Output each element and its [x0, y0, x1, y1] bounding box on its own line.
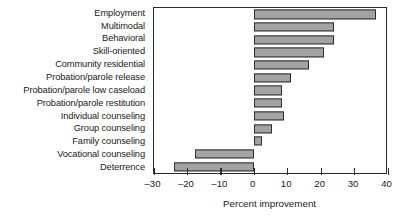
y-axis-tick-label: Individual counseling — [0, 110, 149, 123]
bar-row — [154, 21, 386, 34]
bar — [254, 124, 272, 133]
bar — [254, 35, 334, 44]
y-axis-tick-label: Vocational counseling — [0, 148, 149, 161]
x-axis-tick — [254, 168, 255, 175]
bar — [174, 162, 254, 171]
x-axis-tick-label: 0 — [250, 177, 255, 190]
bar-row — [154, 33, 386, 46]
bar — [254, 137, 262, 146]
bar — [254, 73, 291, 82]
bar-row — [154, 135, 386, 148]
x-axis-tick — [321, 168, 322, 175]
x-axis-tick — [388, 168, 389, 175]
bar-series — [154, 8, 386, 173]
x-axis-tick-label: 10 — [281, 177, 292, 190]
bar-row — [154, 46, 386, 59]
bar-row — [154, 122, 386, 135]
y-axis-tick-label: Group counseling — [0, 123, 149, 136]
x-axis-tick — [187, 168, 188, 175]
y-axis-tick-label: Skill-oriented — [0, 46, 149, 59]
x-axis-tick — [354, 168, 355, 175]
x-axis-tick-labels: –30–20–10010203040 — [153, 177, 387, 191]
y-axis-tick-label: Community residential — [0, 58, 149, 71]
bar-row — [154, 148, 386, 161]
x-axis-tick-label: –10 — [211, 177, 227, 190]
bar — [254, 86, 282, 95]
x-axis-tick — [287, 168, 288, 175]
y-axis-category-labels: Employment Multimodal Behavioral Skill-o… — [0, 7, 149, 174]
y-axis-tick-label: Behavioral — [0, 33, 149, 46]
x-axis-tick-label: 40 — [381, 177, 392, 190]
bar-row — [154, 8, 386, 21]
bar — [254, 48, 324, 57]
bar — [254, 10, 376, 19]
x-axis-tick-label: 20 — [314, 177, 325, 190]
x-axis-tick — [220, 168, 221, 175]
x-axis-tick-label: 30 — [348, 177, 359, 190]
bar-row — [154, 71, 386, 84]
bar-row — [154, 84, 386, 97]
x-axis-tick-label: –30 — [144, 177, 160, 190]
bar-row — [154, 110, 386, 123]
y-axis-tick-label: Employment — [0, 7, 149, 20]
y-axis-tick-label: Multimodal — [0, 20, 149, 33]
bar — [195, 149, 254, 158]
y-axis-tick-label: Probation/parole restitution — [0, 97, 149, 110]
x-axis-tick — [154, 168, 155, 175]
x-axis-title: Percent improvement — [153, 198, 387, 209]
bar-row — [154, 160, 386, 173]
y-axis-tick-label: Probation/parole low caseload — [0, 84, 149, 97]
bar — [254, 22, 334, 31]
y-axis-tick-label: Deterrence — [0, 161, 149, 174]
bar-row — [154, 59, 386, 72]
plot-area — [153, 7, 387, 174]
bar — [254, 61, 309, 70]
bar — [254, 111, 284, 120]
bar-row — [154, 97, 386, 110]
x-axis-tick-label: –20 — [178, 177, 194, 190]
y-axis-tick-label: Family counseling — [0, 135, 149, 148]
y-axis-tick-label: Probation/parole release — [0, 71, 149, 84]
bar — [254, 99, 282, 108]
chart-figure: Employment Multimodal Behavioral Skill-o… — [0, 0, 402, 220]
